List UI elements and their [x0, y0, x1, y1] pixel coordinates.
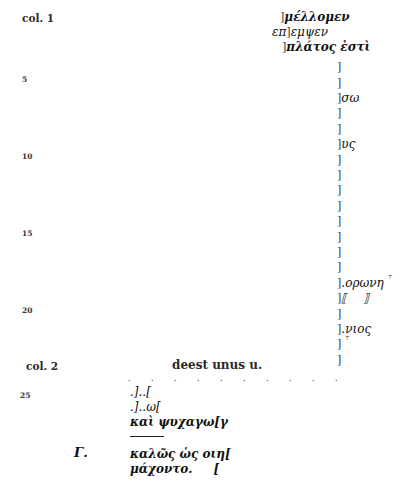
line-number-25: 25 — [20, 391, 30, 400]
speaker-label: Γ. — [74, 446, 88, 460]
col2-line-2: .]..ω[ — [130, 400, 161, 414]
lacuna-dots: . . . . . . . . . . — [128, 372, 347, 383]
column-1-label: col. 1 — [22, 12, 54, 24]
text-line-3: ]πλάτος ἐστὶ — [282, 40, 370, 54]
line-number-5: 5 — [22, 75, 27, 84]
col2-line-3: καὶ ψυχαγω[γ — [130, 415, 228, 429]
marginal-sign: ⸆ — [387, 274, 391, 283]
col2-line-5: μάχοντο. [ — [130, 462, 219, 476]
col2-line-4: καλῶς ὡς οιη[ — [130, 447, 231, 461]
column-2-label: col. 2 — [26, 360, 58, 372]
line-number-15: 15 — [22, 229, 32, 238]
marginal-sign: ⸆ — [344, 335, 348, 344]
line-number-20: 20 — [22, 306, 32, 315]
line-number-10: 10 — [22, 152, 32, 161]
missing-line-note: deest unus u. — [172, 358, 262, 372]
paragraphos-rule — [130, 436, 164, 437]
text-line-2: επ]εμψεν — [272, 25, 328, 39]
lacuna-bracket: ] — [337, 352, 341, 367]
line-text: ⟦ ⟧ — [341, 291, 368, 305]
text-line-1: ]μέλλομεν — [280, 10, 350, 24]
text-line-23: ] — [337, 349, 344, 367]
col2-line-1: .]..[ — [130, 385, 151, 399]
